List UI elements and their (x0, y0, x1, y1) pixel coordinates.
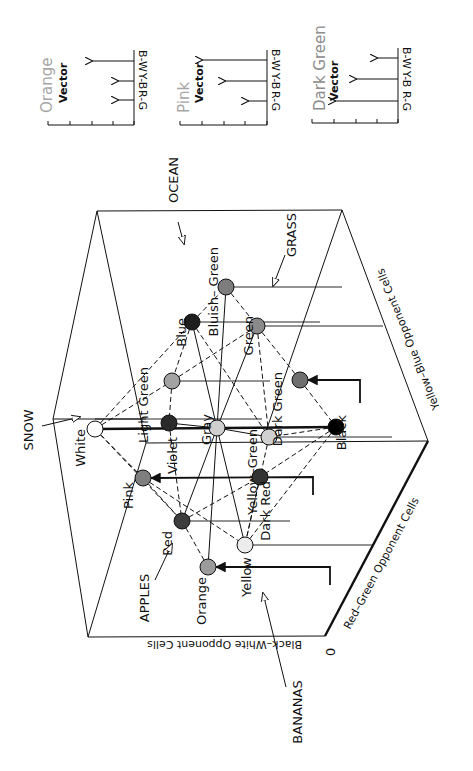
object-labels: SNOWOCEANGRASSAPPLESBANANAS (21, 157, 305, 744)
cube-edge (88, 636, 325, 637)
color-node-violet: Violet (161, 415, 180, 474)
object-label-apples: APPLES (137, 544, 172, 622)
color-label: Dark Red (258, 481, 273, 541)
vector-path (216, 567, 330, 585)
yellow-blue-axis-label: Yellow–Blue Opponent Cells (374, 266, 443, 412)
color-dot-icon (87, 421, 103, 437)
pointer-arrow-icon (273, 255, 285, 286)
red-green-axis-label: Red–Green Opponent Cells (341, 495, 422, 631)
color-node-yellow: Yellow (237, 537, 254, 598)
color-node-white: White (73, 421, 103, 467)
figure-canvas: B-WY-BR-GOrangeVectorB-WY-BR-GPinkVector… (0, 0, 473, 771)
vector-panel-pink: B-WY-BR-GPinkVector (175, 49, 282, 125)
color-label: Orange (194, 577, 209, 625)
vector-subtitle: Vector (193, 62, 206, 103)
red-green-axis (325, 441, 428, 636)
color-nodes: WhiteVioletGrayBlackYellow–GreenBlueBlui… (73, 247, 349, 625)
color-label: Blue (174, 318, 189, 347)
color-label: Yellow (239, 557, 254, 598)
color-dot-icon (174, 513, 190, 529)
channel-label: Y-B (400, 70, 413, 88)
color-label: Green (241, 316, 256, 355)
vector-title: Dark Green (311, 25, 329, 111)
color-label: Light Green (136, 367, 151, 443)
vector-title: Orange (38, 58, 56, 113)
channel-label: B-W (136, 50, 149, 72)
opponent-color-space-figure: B-WY-BR-GOrangeVectorB-WY-BR-GPinkVector… (0, 0, 473, 771)
color-label: Black (334, 415, 349, 451)
pointer-arrow-icon (42, 417, 80, 426)
vector-subtitle: Vector (328, 60, 341, 101)
solid-link (192, 322, 217, 428)
color-label: Pink (121, 482, 136, 509)
vector-panel-orange: B-WY-BR-GOrangeVector (38, 50, 149, 125)
origin-label: 0 (323, 648, 338, 656)
color-label: Violet (165, 437, 180, 474)
solid-link (217, 428, 245, 545)
dashed-link (95, 381, 172, 429)
dashed-link (257, 326, 300, 380)
object-label-ocean: OCEAN (166, 157, 184, 244)
color-label: White (73, 429, 88, 467)
channel-label: R-G (400, 91, 413, 111)
color-node-red: Red (160, 513, 190, 556)
object-label-snow: SNOW (21, 409, 80, 450)
color-label: Dark Green (270, 372, 285, 446)
color-label: Red (160, 531, 175, 556)
cube-edge (146, 441, 428, 443)
channel-label: R-G (136, 90, 149, 110)
color-dot-icon (161, 415, 177, 431)
vector-subtitle: Vector (57, 62, 70, 103)
color-dot-icon (237, 537, 253, 553)
color-dot-icon (200, 559, 216, 575)
dashed-link (257, 326, 269, 437)
channel-label: B-W (269, 49, 282, 71)
cube-edge (97, 210, 342, 211)
color-node-dark-green: Dark Green (270, 372, 308, 446)
color-label: Gray (199, 414, 214, 445)
object-label-text: GRASS (284, 213, 299, 257)
channel-label: R-G (269, 91, 282, 111)
black-white-axis-label: Black–White Opponent Cells (147, 638, 302, 651)
color-node-light-green: Light Green (136, 367, 180, 443)
color-dot-icon (164, 373, 180, 389)
color-node-orange: Orange (194, 559, 216, 625)
vector-title: Pink (175, 82, 193, 113)
object-label-text: SNOW (21, 409, 36, 450)
color-node-blue: Blue (174, 314, 200, 347)
channel-label: Y-B (136, 72, 149, 90)
object-label-grass: GRASS (273, 213, 299, 286)
object-label-bananas: BANANAS (263, 593, 305, 744)
pointer-arrow-icon (178, 222, 184, 244)
cube-edge (53, 211, 97, 419)
vector-panels: B-WY-BR-GOrangeVectorB-WY-BR-GPinkVector… (38, 25, 413, 125)
object-label-text: OCEAN (166, 157, 181, 203)
color-label: Bluish– Green (206, 247, 221, 336)
channel-label: Y-B (269, 72, 282, 90)
color-dot-icon (135, 470, 151, 486)
object-label-text: APPLES (137, 574, 152, 622)
vector-path (308, 380, 360, 403)
cube-edge (342, 210, 428, 441)
vector-panel-dark-green: B-WY-BR-GDark GreenVector (311, 25, 413, 123)
dashed-link (300, 380, 336, 427)
object-label-text: BANANAS (290, 680, 305, 743)
color-node-pink: Pink (121, 470, 151, 509)
color-node-green: Green (241, 316, 265, 355)
dashed-link (143, 478, 182, 521)
color-node-bluish-green: Bluish– Green (206, 247, 234, 336)
color-dot-icon (292, 372, 308, 388)
channel-label: B-W (400, 47, 413, 69)
